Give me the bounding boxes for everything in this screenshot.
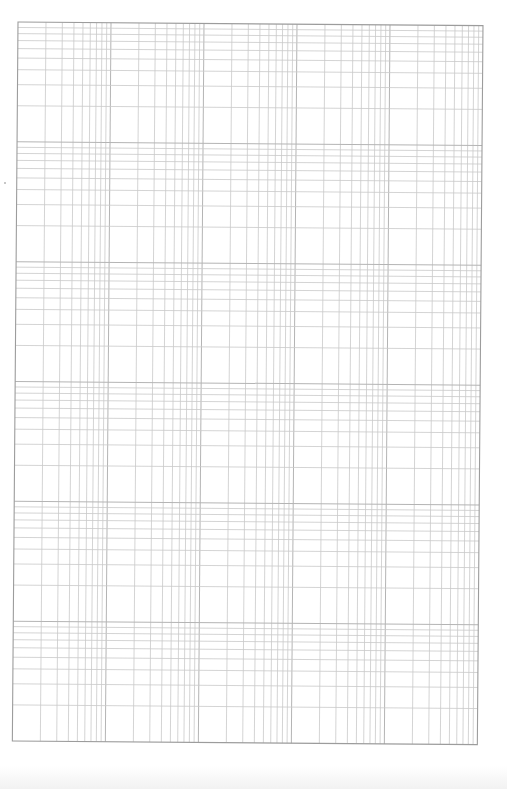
grid-line-y [18,58,483,62]
grid-line-y [18,27,483,31]
grid-line-y [14,507,479,511]
grid-line-y [18,34,483,38]
grid-line-y [15,429,480,433]
grid-line-y [13,684,478,688]
grid-line-y [16,273,481,277]
scan-shading [0,766,507,789]
grid [12,22,483,745]
grid-line-y [13,657,478,661]
grid-line-y [16,288,481,292]
grid-line-y [15,444,480,448]
decade-line-y [17,142,482,146]
grid-line-y [16,324,481,328]
grid-line-y [13,633,478,637]
grid-line-y [18,85,483,89]
grid-line-y [15,465,480,469]
grid-line-y [14,513,479,517]
decade-line-y [14,501,479,505]
grid-line-y [17,106,482,110]
scan-speck [4,182,6,184]
grid-line-y [14,585,479,589]
grid-line-y [16,226,481,230]
grid-line-y [17,190,482,194]
grid-line-y [18,70,483,74]
grid-line-y [13,627,478,631]
grid-line-y [18,41,483,45]
grid-line-y [16,267,481,271]
grid-line-y [14,520,479,524]
grid-line-y [14,528,479,532]
grid-line-y [15,393,480,397]
decade-line-y [13,621,478,625]
grid-line-y [17,160,482,164]
grid-line-y [17,147,482,151]
grid-line-y [18,49,483,53]
grid-line-y [17,204,482,208]
grid-line-y [16,309,481,313]
grid-line-y [13,640,478,644]
grid-line-y [15,408,480,412]
grid-line-y [14,549,479,553]
grid-line-y [15,345,480,349]
grid-line-y [15,387,480,391]
grid-line-y [14,564,479,568]
grid-line-y [15,400,480,404]
decade-line-y [15,381,480,385]
grid-line-y [17,178,482,182]
grid-line-y [13,669,478,673]
decade-line-y [16,262,481,266]
grid-line-y [13,648,478,652]
grid-line-y [16,298,481,302]
log-log-graph-paper [0,0,507,789]
grid-line-y [13,705,478,709]
grid-line-y [17,168,482,172]
grid-line-y [14,537,479,541]
grid-line-y [17,153,482,157]
grid-line-y [16,280,481,284]
grid-line-y [15,418,480,422]
